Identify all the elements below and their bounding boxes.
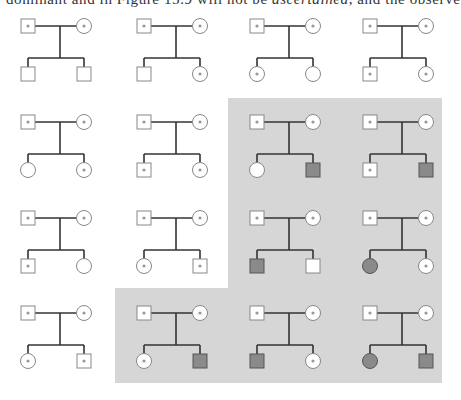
carrier-dot-icon [255, 120, 258, 123]
carrier-dot-icon [82, 216, 85, 219]
carrier-dot-icon [311, 216, 314, 219]
male-affected-icon [306, 163, 320, 177]
carrier-dot-icon [142, 168, 145, 171]
carrier-dot-icon [368, 216, 371, 219]
carrier-dot-icon [26, 120, 29, 123]
carrier-dot-icon [142, 264, 145, 267]
carrier-dot-icon [26, 24, 29, 27]
carrier-dot-icon [198, 72, 201, 75]
pedigree-r4c1 [21, 306, 92, 369]
carrier-dot-icon [198, 168, 201, 171]
male-affected-icon [419, 163, 433, 177]
carrier-dot-icon [368, 168, 371, 171]
carrier-dot-icon [255, 24, 258, 27]
pedigree-r3c2 [137, 211, 208, 274]
carrier-dot-icon [26, 264, 29, 267]
carrier-dot-icon [198, 216, 201, 219]
carrier-dot-icon [142, 24, 145, 27]
pedigree-r1c3 [250, 19, 321, 82]
male-unaffected-icon [306, 259, 320, 273]
carrier-dot-icon [424, 120, 427, 123]
carrier-dot-icon [82, 359, 85, 362]
carrier-dot-icon [368, 24, 371, 27]
carrier-dot-icon [368, 120, 371, 123]
carrier-dot-icon [255, 72, 258, 75]
carrier-dot-icon [368, 311, 371, 314]
carrier-dot-icon [311, 24, 314, 27]
pedigree-r2c1 [21, 115, 92, 178]
carrier-dot-icon [198, 120, 201, 123]
carrier-dot-icon [82, 311, 85, 314]
carrier-dot-icon [142, 359, 145, 362]
ascertained-shaded-region [115, 98, 442, 383]
pedigree-r2c2 [137, 115, 208, 178]
female-unaffected-icon [306, 67, 321, 82]
carrier-dot-icon [198, 264, 201, 267]
carrier-dot-icon [424, 72, 427, 75]
carrier-dot-icon [424, 311, 427, 314]
carrier-dot-icon [142, 216, 145, 219]
carrier-dot-icon [311, 120, 314, 123]
pedigree-r3c1 [21, 211, 92, 274]
carrier-dot-icon [198, 24, 201, 27]
male-affected-icon [250, 354, 264, 368]
carrier-dot-icon [82, 120, 85, 123]
female-unaffected-icon [77, 259, 92, 274]
carrier-dot-icon [255, 216, 258, 219]
female-unaffected-icon [250, 163, 265, 178]
female-affected-icon [363, 354, 378, 369]
carrier-dot-icon [424, 264, 427, 267]
carrier-dot-icon [424, 216, 427, 219]
carrier-dot-icon [82, 24, 85, 27]
carrier-dot-icon [142, 120, 145, 123]
carrier-dot-icon [82, 168, 85, 171]
carrier-dot-icon [255, 311, 258, 314]
male-unaffected-icon [77, 67, 91, 81]
male-affected-icon [419, 354, 433, 368]
pedigree-r1c2 [137, 19, 208, 82]
pedigree-r1c1 [21, 19, 92, 82]
carrier-dot-icon [311, 311, 314, 314]
carrier-dot-icon [26, 359, 29, 362]
carrier-dot-icon [26, 216, 29, 219]
male-unaffected-icon [21, 67, 35, 81]
carrier-dot-icon [198, 311, 201, 314]
male-unaffected-icon [137, 67, 151, 81]
carrier-dot-icon [368, 72, 371, 75]
carrier-dot-icon [311, 359, 314, 362]
carrier-dot-icon [424, 24, 427, 27]
female-unaffected-icon [21, 163, 36, 178]
male-affected-icon [250, 259, 264, 273]
pedigree-r1c4 [363, 19, 434, 82]
male-affected-icon [193, 354, 207, 368]
female-affected-icon [363, 259, 378, 274]
carrier-dot-icon [142, 311, 145, 314]
carrier-dot-icon [26, 311, 29, 314]
